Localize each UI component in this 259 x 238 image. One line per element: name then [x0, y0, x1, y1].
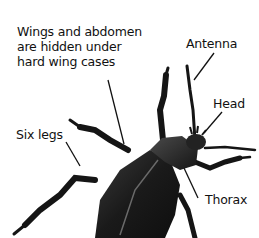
label-six-legs: Six legs	[16, 127, 63, 142]
head	[186, 134, 206, 150]
label-line: Wings and abdomen	[17, 24, 142, 39]
label-line: Antenna	[186, 36, 237, 51]
label-line: Six legs	[16, 127, 63, 142]
label-line: Head	[213, 96, 245, 111]
beetle-diagram: Wings and abdomen are hidden under hard …	[0, 0, 259, 238]
label-line: Thorax	[205, 192, 247, 207]
label-antenna: Antenna	[186, 36, 237, 51]
label-line: are hidden under	[17, 39, 142, 54]
label-line: hard wing cases	[17, 54, 142, 69]
label-wings: Wings and abdomen are hidden under hard …	[17, 24, 142, 69]
label-head: Head	[213, 96, 245, 111]
label-thorax: Thorax	[205, 192, 247, 207]
